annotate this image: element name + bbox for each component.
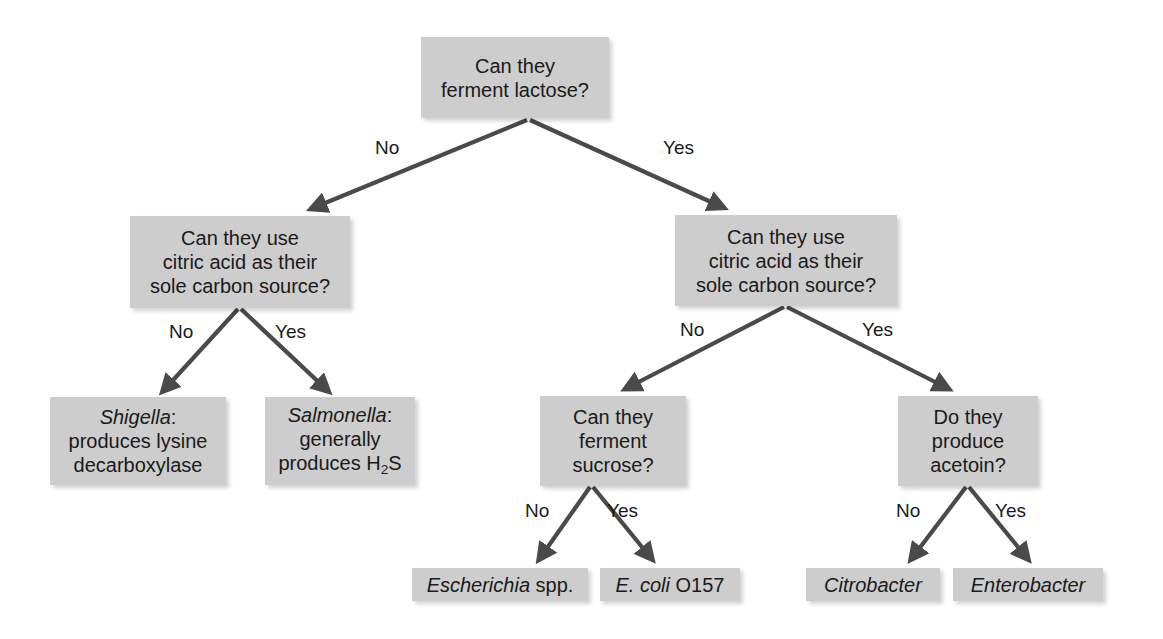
node-right-citrate-line3: sole carbon source? [696, 274, 876, 296]
node-shigella-genus: Shigella [100, 406, 171, 428]
edge-label-root-yes: Yes [663, 137, 694, 159]
node-escherichia-text: Escherichia spp. [412, 573, 588, 597]
node-escherichia[interactable]: Escherichia spp. [412, 568, 588, 601]
edge-label-root-no: No [375, 137, 399, 159]
edge-acetoin-yes [969, 487, 1027, 558]
decision-tree-diagram: Can they ferment lactose? No Yes Can the… [0, 0, 1163, 639]
edge-acetoin-no [912, 487, 966, 558]
node-salmonella-line3-post: S [388, 452, 401, 474]
node-citrobacter-genus: Citrobacter [824, 574, 922, 596]
edge-sucrose-yes [593, 487, 651, 558]
node-acetoin-text: Do they produce acetoin? [898, 405, 1038, 477]
node-sucrose-question[interactable]: Can they ferment sucrose? [540, 396, 686, 486]
edge-root-yes [530, 120, 722, 207]
node-right-citrate-line2: citric acid as their [709, 250, 864, 272]
edge-right-no [627, 307, 784, 388]
node-escherichia-suffix: spp. [530, 574, 573, 596]
edge-label-right-yes: Yes [862, 319, 893, 341]
edge-root-no [313, 120, 527, 208]
node-acetoin-line2: produce [932, 430, 1004, 452]
edge-label-sucrose-yes: Yes [607, 500, 638, 522]
node-salmonella-colon: : [387, 404, 393, 426]
node-left-citrate-line1: Can they use [181, 227, 299, 249]
node-citrobacter-text: Citrobacter [806, 573, 940, 597]
node-shigella-colon: : [171, 406, 177, 428]
node-right-citrate-question[interactable]: Can they use citric acid as their sole c… [675, 215, 897, 306]
node-enterobacter-genus: Enterobacter [971, 574, 1086, 596]
node-root-text: Can they ferment lactose? [421, 54, 609, 102]
node-right-citrate-text: Can they use citric acid as their sole c… [675, 225, 897, 297]
node-salmonella-line3: produces H2S [278, 452, 401, 474]
node-salmonella-genus: Salmonella [288, 404, 387, 426]
edge-label-left-no: No [169, 321, 193, 343]
node-salmonella-text: Salmonella: generally produces H2S [265, 403, 415, 478]
node-shigella[interactable]: Shigella: produces lysine decarboxylase [50, 397, 226, 485]
node-root-question[interactable]: Can they ferment lactose? [421, 37, 609, 118]
node-left-citrate-question[interactable]: Can they use citric acid as their sole c… [130, 216, 350, 308]
node-ecoli-text: E. coli O157 [600, 573, 740, 597]
node-sucrose-line2: ferment [579, 430, 647, 452]
node-ecoli-o157[interactable]: E. coli O157 [600, 568, 740, 601]
node-sucrose-line1: Can they [573, 406, 653, 428]
node-left-citrate-line2: citric acid as their [163, 251, 318, 273]
edge-label-sucrose-no: No [525, 500, 549, 522]
node-acetoin-line1: Do they [934, 406, 1003, 428]
node-acetoin-line3: acetoin? [930, 454, 1006, 476]
node-ecoli-genus: E. coli [616, 574, 670, 596]
node-salmonella[interactable]: Salmonella: generally produces H2S [265, 397, 415, 485]
node-root-line2: ferment lactose? [441, 79, 589, 101]
edge-label-left-yes: Yes [275, 321, 306, 343]
edge-sucrose-no [540, 487, 590, 558]
node-sucrose-text: Can they ferment sucrose? [540, 405, 686, 477]
node-sucrose-line3: sucrose? [572, 454, 653, 476]
node-salmonella-line3-pre: produces H [278, 452, 380, 474]
node-left-citrate-text: Can they use citric acid as their sole c… [130, 226, 350, 298]
edge-label-acetoin-no: No [896, 500, 920, 522]
node-root-line1: Can they [475, 55, 555, 77]
edge-label-acetoin-yes: Yes [995, 500, 1026, 522]
node-acetoin-question[interactable]: Do they produce acetoin? [898, 396, 1038, 486]
node-right-citrate-line1: Can they use [727, 226, 845, 248]
node-escherichia-genus: Escherichia [427, 574, 530, 596]
node-shigella-line3: decarboxylase [74, 454, 203, 476]
node-enterobacter[interactable]: Enterobacter [953, 568, 1103, 601]
node-ecoli-suffix: O157 [670, 574, 724, 596]
node-left-citrate-line3: sole carbon source? [150, 275, 330, 297]
node-shigella-line2: produces lysine [69, 430, 208, 452]
node-salmonella-line2: generally [299, 428, 380, 450]
node-shigella-text: Shigella: produces lysine decarboxylase [50, 405, 226, 477]
node-citrobacter[interactable]: Citrobacter [806, 568, 940, 601]
edge-label-right-no: No [680, 319, 704, 341]
node-enterobacter-text: Enterobacter [953, 573, 1103, 597]
